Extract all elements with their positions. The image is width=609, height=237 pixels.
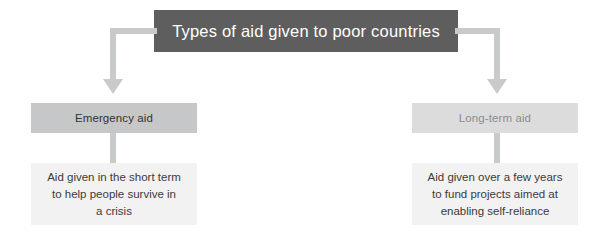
connector-root-to-long-term-vertical xyxy=(494,28,500,80)
connector-emergency-to-description xyxy=(110,133,116,163)
description-long-term-line-1: Aid given over a few years xyxy=(418,169,572,186)
connector-root-to-emergency-vertical xyxy=(110,28,116,80)
root-node-label: Types of aid given to poor countries xyxy=(172,22,440,41)
description-emergency-line-1: Aid given in the short term xyxy=(37,169,191,186)
category-node-long-term-aid-label: Long-term aid xyxy=(459,112,531,124)
arrowhead-down-icon-long-term xyxy=(487,79,507,94)
description-long-term-line-3: enabling self-reliance xyxy=(418,203,572,220)
description-long-term-line-2: to fund projects aimed at xyxy=(418,186,572,203)
diagram-canvas: Types of aid given to poor countries Eme… xyxy=(0,0,609,237)
description-node-long-term-aid: Aid given over a few years to fund proje… xyxy=(412,163,578,225)
root-node-types-of-aid: Types of aid given to poor countries xyxy=(154,10,458,52)
category-node-emergency-aid-label: Emergency aid xyxy=(75,112,153,124)
description-long-term-lines: Aid given over a few years to fund proje… xyxy=(418,169,572,220)
description-emergency-lines: Aid given in the short term to help peop… xyxy=(37,169,191,220)
category-node-emergency-aid: Emergency aid xyxy=(31,103,197,133)
connector-root-to-emergency-horizontal xyxy=(110,28,157,34)
arrowhead-down-icon-emergency xyxy=(103,79,123,94)
description-emergency-line-2: to help people survive in xyxy=(37,186,191,203)
category-node-long-term-aid: Long-term aid xyxy=(412,103,578,133)
description-node-emergency-aid: Aid given in the short term to help peop… xyxy=(31,163,197,225)
connector-long-term-to-description xyxy=(494,133,500,163)
description-emergency-line-3: a crisis xyxy=(37,203,191,220)
